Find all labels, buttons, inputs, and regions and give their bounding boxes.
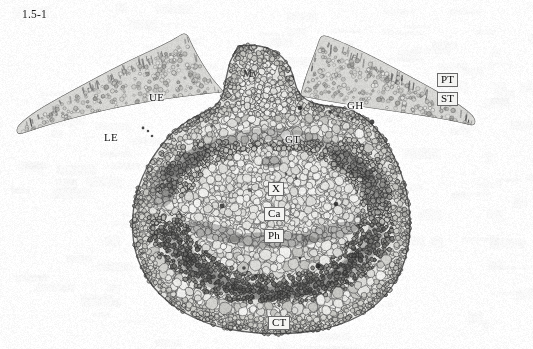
label-st: ST (437, 92, 458, 106)
label-le: LE (104, 132, 118, 143)
label-ph: Ph (264, 229, 284, 243)
label-ue: UE (149, 92, 164, 103)
label-ca: Ca (264, 207, 285, 221)
label-my: My (243, 69, 258, 79)
leaf-cross-section-micrograph (0, 0, 533, 349)
micrograph-figure: 1.5-1 MyUELEGHPTSTGTXCaPhCT (0, 0, 533, 349)
label-gh: GH (347, 100, 363, 111)
label-gt: GT (285, 134, 300, 145)
label-pt: PT (437, 73, 458, 87)
figure-caption: 1.5-1 (22, 8, 47, 20)
label-ct: CT (268, 316, 290, 330)
label-x: X (268, 182, 284, 196)
